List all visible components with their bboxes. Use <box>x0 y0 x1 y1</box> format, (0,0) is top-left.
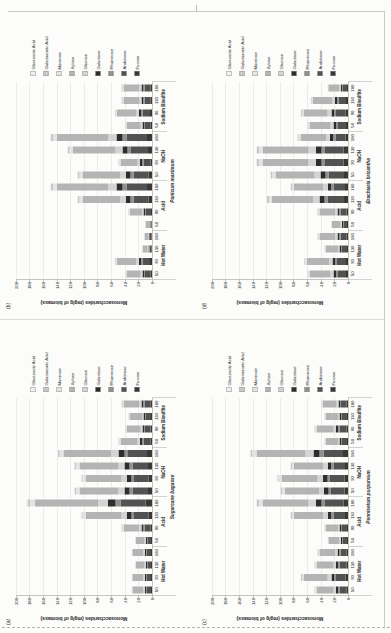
bar-segment-mannose <box>282 487 285 494</box>
bar-segment-fucose <box>148 512 152 519</box>
y-tick-label: 0 <box>346 282 351 299</box>
bar-segment-xylose <box>127 425 141 432</box>
bar-segment-fucose <box>147 134 152 141</box>
bar-segment-arabinose <box>340 208 346 215</box>
legend-label: Rhamnose <box>304 365 309 387</box>
y-axis-title: Monosaccharides (mg/g of biomass) <box>212 615 348 621</box>
bar-segment-glucose <box>326 134 330 141</box>
bar-segment-glucuronic-acid <box>74 487 75 494</box>
bar-segment-mannose <box>292 184 294 191</box>
legend-label: Galacturonic Acid <box>239 352 244 387</box>
bar-segment-arabinose <box>131 147 148 154</box>
legend-marker-fucose <box>330 71 335 76</box>
bar-segment-galactose <box>334 122 336 129</box>
legend-label: Galactose <box>291 50 296 71</box>
y-axis-line <box>16 280 152 281</box>
stacked-bar <box>256 500 348 507</box>
bar-segment-glucose <box>118 463 124 470</box>
temp-tick-label: 50 <box>350 169 355 181</box>
legend-marker-glucuronic-acid <box>226 387 231 392</box>
legend-item: Galactose <box>289 50 295 76</box>
bar-segment-arabinose <box>147 586 151 593</box>
legend-marker-mannose <box>252 387 257 392</box>
group-label: Sodium Bisulfite <box>357 82 363 132</box>
bar-segment-galactose <box>140 159 142 166</box>
bar-segment-rhamnose <box>143 85 144 92</box>
temp-tick-label: 50 <box>154 435 159 447</box>
bar-segment-arabinose <box>146 208 151 215</box>
bar-segment-galactose <box>145 586 146 593</box>
bar-segment-xylose <box>82 196 119 203</box>
y-tick-label: 40 <box>122 282 127 299</box>
bar-segment-arabinose <box>325 147 343 154</box>
bar-segment-fucose <box>345 184 348 191</box>
bar-segment-rhamnose <box>122 134 126 141</box>
bar-segment-galacturonic-acid <box>291 512 292 519</box>
legend-label: Rhamnose <box>108 49 113 71</box>
bar-segment-arabinose <box>144 438 151 445</box>
temp-tick-label: 180 <box>350 82 355 94</box>
bar-segment-rhamnose <box>341 438 342 445</box>
bar-segment-mannose <box>136 537 137 544</box>
group-label: Sodium Bisulfite <box>161 398 167 448</box>
species-label: Brachiaria brizantha <box>366 82 372 280</box>
bar-segment-galactose <box>337 549 339 556</box>
temp-tick-label: 50 <box>350 584 355 596</box>
bar-segment-arabinose <box>343 537 347 544</box>
bar-segment-fucose <box>347 85 348 92</box>
temp-tick-label: 50 <box>154 534 159 546</box>
legend-label: Galacturonic Acid <box>239 36 244 71</box>
bar-segment-mannose <box>83 475 86 482</box>
bar-segment-galacturonic-acid <box>58 450 60 457</box>
legend-marker-glucuronic-acid <box>30 387 35 392</box>
bar-segment-rhamnose <box>147 562 148 569</box>
bar-segment-fucose <box>151 562 152 569</box>
x-axis-line <box>152 398 153 596</box>
bar-segment-arabinose <box>342 524 347 531</box>
bar-segment-mannose <box>122 85 123 92</box>
bar-segment-mannose <box>308 270 310 277</box>
bar-segment-xylose <box>86 512 122 519</box>
bar-segment-xylose <box>124 524 139 531</box>
temp-tick-label: 130 <box>350 243 355 255</box>
species-label: Sugarcane bagasse <box>170 398 176 596</box>
temp-tick-label: 130 <box>350 460 355 472</box>
bar-segment-glucose <box>142 413 144 420</box>
legend-item: Glucuronic Acid <box>224 356 230 392</box>
y-axis-title: Monosaccharides (mg/g of biomass) <box>16 615 152 621</box>
legend-item: Glucuronic Acid <box>28 356 34 392</box>
bar-segment-arabinose <box>150 221 151 228</box>
bar-segment-arabinose <box>341 401 346 408</box>
bar-segment-fucose <box>151 537 152 544</box>
y-tick-label: 60 <box>109 282 114 299</box>
bar-segment-rhamnose <box>144 270 145 277</box>
bar-segment-glucuronic-acid <box>290 184 291 191</box>
legend-label: Mannose <box>252 368 257 387</box>
bar-segment-galactose <box>340 438 341 445</box>
stacked-bar <box>77 196 152 203</box>
bar-segment-galactose <box>324 487 328 494</box>
bar-segment-galacturonic-acid <box>301 574 302 581</box>
bar-segment-arabinose <box>147 574 151 581</box>
bar-segment-galacturonic-acid <box>51 184 53 191</box>
bar-segment-arabinose <box>338 122 346 129</box>
temp-tick-label: 50 <box>154 218 159 230</box>
bar-segment-rhamnose <box>339 233 340 240</box>
rotated-chart-a: 0204060801001201401601802005090130180Hot… <box>4 330 188 626</box>
bar-segment-galacturonic-acid <box>321 401 322 408</box>
bar-segment-glucose <box>333 586 336 593</box>
rotated-chart-b: 0204060801001201401601802005090130180Hot… <box>4 14 188 310</box>
y-tick-label: 180 <box>223 282 228 299</box>
bar-segment-fucose <box>346 233 348 240</box>
bar-segment-rhamnose <box>338 562 339 569</box>
bar-segment-galactose <box>141 524 143 531</box>
bar-segment-galacturonic-acid <box>118 159 119 166</box>
bar-segment-mannose <box>122 97 123 104</box>
bar-segment-arabinose <box>336 109 346 116</box>
y-tick-label: 200 <box>210 282 215 299</box>
stacked-bar <box>317 208 348 215</box>
bar-segment-xylose <box>320 549 335 556</box>
bar-segment-galactose <box>116 184 122 191</box>
gridline <box>16 398 17 596</box>
bar-segment-glucose <box>140 425 142 432</box>
